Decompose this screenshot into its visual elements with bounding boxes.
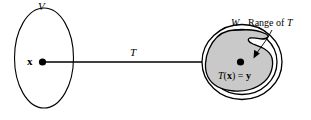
domain-element-label: x — [27, 56, 33, 67]
range-annotation-text: Range of T — [248, 17, 292, 28]
image-label-value: y — [246, 70, 251, 81]
linear-transformation-diagram: V x T W Range of T T(x) = y — [0, 0, 311, 120]
codomain-set-label: W — [231, 18, 239, 28]
range-point-dot — [237, 58, 244, 65]
range-annotation-operator: T — [287, 17, 293, 28]
domain-point-dot — [39, 58, 46, 65]
mapping-arrow-label: T — [130, 47, 136, 58]
domain-ellipse-V — [15, 8, 74, 108]
range-image-label: T(x) = y — [218, 71, 251, 81]
range-annotation-label: Range of T — [248, 18, 292, 28]
range-annotation-prefix: Range of — [248, 17, 287, 28]
domain-set-label: V — [38, 1, 45, 12]
